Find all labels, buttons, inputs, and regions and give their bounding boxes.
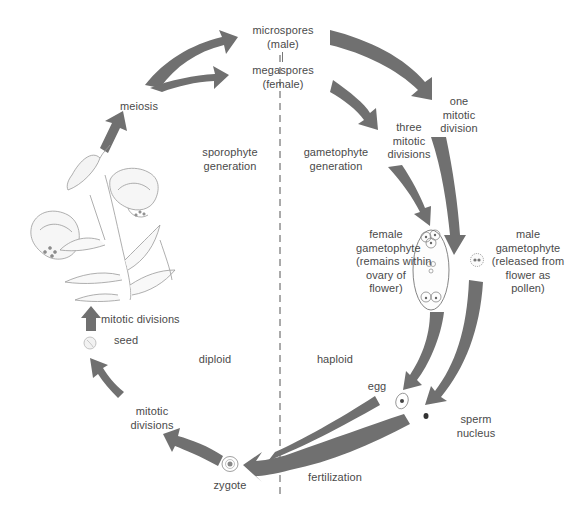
- label-mitotic-divisions-top: mitotic divisions: [101, 313, 180, 327]
- label-fertilization: fertilization: [300, 471, 370, 485]
- label-haploid: haploid: [310, 353, 360, 367]
- arrow-zygote-to-mitotic: [163, 428, 223, 466]
- label-gametophyte-generation: gametophyte generation: [298, 146, 374, 173]
- label-diploid: diploid: [190, 353, 240, 367]
- arrow-three-mitotic-to-female-gametophyte: [388, 165, 431, 226]
- connector-micro-mega: [282, 52, 283, 62]
- plant-life-cycle-diagram: microspores (male) megaspores (female) m…: [0, 0, 578, 520]
- label-mitotic-divisions-bottom: mitotic divisions: [122, 405, 182, 432]
- label-zygote: zygote: [210, 479, 250, 493]
- label-female-gametophyte: female gametophyte (remains within ovary…: [356, 228, 416, 296]
- label-megaspores: megaspores (female): [238, 64, 328, 91]
- label-sporophyte-generation: sporophyte generation: [195, 146, 265, 173]
- male-gametophyte-pollen: [471, 254, 484, 267]
- egg-cell: [394, 391, 411, 410]
- arrow-seed-to-plant: [81, 306, 101, 331]
- arrow-megaspores-to-three-mitotic: [330, 80, 378, 130]
- label-egg: egg: [362, 380, 392, 394]
- arrow-female-gametophyte-to-egg: [403, 312, 444, 390]
- label-three-mitotic-divisions: three mitotic divisions: [379, 121, 439, 162]
- seed-sketch: [84, 337, 96, 349]
- label-meiosis: meiosis: [114, 100, 164, 114]
- lily-plant-sketch: [31, 145, 175, 302]
- arrow-mitotic-to-seed: [90, 358, 124, 398]
- label-seed: seed: [114, 334, 138, 348]
- label-sperm-nucleus: sperm nucleus: [446, 413, 506, 440]
- label-microspores: microspores (male): [238, 24, 328, 51]
- sperm-nucleus-dot: [424, 413, 429, 419]
- zygote-cell: [222, 457, 238, 472]
- arrow-plant-to-meiosis: [100, 111, 127, 153]
- label-male-gametophyte: male gametophyte (released from flower a…: [490, 228, 566, 296]
